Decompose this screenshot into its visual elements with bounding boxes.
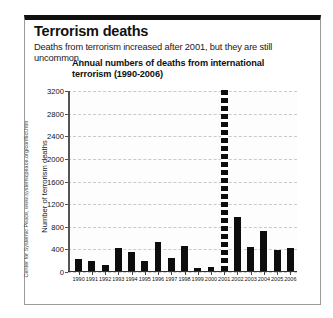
x-tick-mark bbox=[145, 272, 146, 275]
x-tick-mark bbox=[237, 272, 238, 275]
x-tick-mark bbox=[158, 272, 159, 275]
x-tick-label: 1991 bbox=[86, 276, 98, 282]
x-tick-mark bbox=[198, 272, 199, 275]
y-tick-label: 2400 bbox=[34, 132, 64, 141]
x-tick-mark bbox=[118, 272, 119, 275]
x-tick-mark bbox=[290, 272, 291, 275]
x-tick-label: 1999 bbox=[192, 276, 204, 282]
bar bbox=[287, 248, 294, 271]
x-tick-mark bbox=[105, 272, 106, 275]
y-tick-label: 800 bbox=[34, 222, 64, 231]
gridline bbox=[68, 91, 297, 92]
x-tick-mark bbox=[132, 272, 133, 275]
bar bbox=[155, 242, 162, 270]
x-tick-mark bbox=[264, 272, 265, 275]
x-tick-label: 1997 bbox=[165, 276, 177, 282]
bar bbox=[247, 247, 254, 271]
x-tick-label: 1995 bbox=[139, 276, 151, 282]
x-tick-label: 2004 bbox=[258, 276, 270, 282]
x-tick-label: 2005 bbox=[271, 276, 283, 282]
x-tick-mark bbox=[92, 272, 93, 275]
chart-title: Annual numbers of deaths from internatio… bbox=[72, 58, 287, 80]
bar bbox=[115, 248, 122, 271]
x-tick-label: 1998 bbox=[178, 276, 190, 282]
bar bbox=[168, 258, 175, 271]
y-tick-label: 400 bbox=[34, 245, 64, 254]
y-tick-label: 2800 bbox=[34, 109, 64, 118]
x-tick-mark bbox=[251, 272, 252, 275]
y-tick-label: 2000 bbox=[34, 154, 64, 163]
page-title: Terrorism deaths bbox=[34, 23, 148, 39]
bar bbox=[128, 252, 135, 270]
bar bbox=[274, 250, 281, 270]
gridline bbox=[68, 204, 297, 205]
y-tick-label: 3200 bbox=[34, 87, 64, 96]
y-axis-line bbox=[68, 91, 70, 272]
x-tick-label: 2003 bbox=[245, 276, 257, 282]
gridline bbox=[68, 227, 297, 228]
x-tick-label: 2001 bbox=[218, 276, 230, 282]
x-tick-label: 1996 bbox=[152, 276, 164, 282]
bar bbox=[75, 259, 82, 270]
gridline bbox=[68, 182, 297, 183]
x-tick-label: 1990 bbox=[72, 276, 84, 282]
x-tick-label: 1993 bbox=[112, 276, 124, 282]
bar bbox=[88, 261, 95, 270]
source-credit: Center for Systemic Peace, www.systemicp… bbox=[23, 111, 29, 287]
bar bbox=[141, 261, 148, 271]
x-tick-mark bbox=[171, 272, 172, 275]
bar bbox=[260, 231, 267, 271]
x-tick-mark bbox=[79, 272, 80, 275]
x-axis-line bbox=[68, 271, 297, 273]
x-tick-label: 2000 bbox=[205, 276, 217, 282]
x-tick-mark bbox=[211, 272, 212, 275]
bar bbox=[181, 246, 188, 270]
gridline bbox=[68, 136, 297, 137]
plot-area: 0400800120016002000240028003200 19901991… bbox=[68, 91, 297, 272]
y-tick-label: 1200 bbox=[34, 200, 64, 209]
y-tick-label: 1600 bbox=[34, 177, 64, 186]
bar bbox=[234, 217, 241, 271]
x-tick-mark bbox=[185, 272, 186, 275]
x-tick-mark bbox=[224, 272, 225, 275]
bar bbox=[221, 90, 228, 271]
x-tick-label: 2006 bbox=[284, 276, 296, 282]
x-tick-label: 1992 bbox=[99, 276, 111, 282]
y-tick-label: 0 bbox=[34, 268, 64, 277]
gridline bbox=[68, 272, 297, 273]
chart-figure: Terrorism deaths Deaths from terrorism i… bbox=[0, 0, 333, 318]
x-tick-label: 1994 bbox=[125, 276, 137, 282]
x-tick-label: 2002 bbox=[231, 276, 243, 282]
x-tick-mark bbox=[277, 272, 278, 275]
gridline bbox=[68, 159, 297, 160]
gridline bbox=[68, 114, 297, 115]
